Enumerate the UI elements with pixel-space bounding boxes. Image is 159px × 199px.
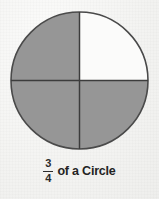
quadrant-lower-right-shaded xyxy=(80,81,149,150)
quadrant-lower-left-shaded xyxy=(11,81,80,150)
fraction-circle-diagram xyxy=(10,11,149,150)
figure-root: 3 4 of a Circle xyxy=(0,0,159,199)
caption: 3 4 of a Circle xyxy=(0,158,159,184)
caption-label: of a Circle xyxy=(57,164,115,178)
fraction-numerator: 3 xyxy=(44,158,52,170)
quadrant-upper-right-unshaded xyxy=(80,12,149,81)
fraction-denominator: 4 xyxy=(44,172,52,184)
quadrant-upper-left-shaded xyxy=(11,12,80,81)
fraction-three-quarters: 3 4 xyxy=(43,158,53,184)
